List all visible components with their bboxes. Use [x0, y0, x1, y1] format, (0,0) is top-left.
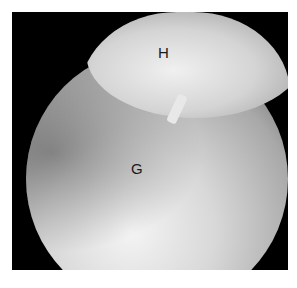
label-g: G	[131, 160, 143, 177]
scope-notch-marker	[12, 146, 20, 158]
image-frame	[12, 12, 288, 270]
label-h: H	[158, 44, 169, 61]
